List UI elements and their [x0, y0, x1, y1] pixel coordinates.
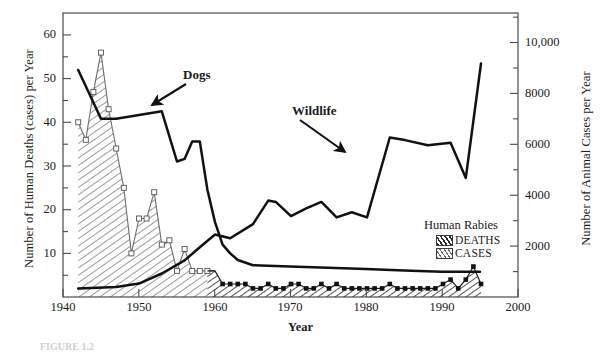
- legend-item-deaths: DEATHS: [436, 234, 524, 246]
- y-right-tick-6000: 6000: [525, 137, 550, 152]
- deaths-line: [207, 267, 481, 289]
- dogs-arrow: [152, 84, 186, 105]
- legend-title: Human Rabies: [424, 218, 524, 233]
- y-left-tick-10: 10: [18, 246, 56, 261]
- x-tick-2000: 2000: [493, 300, 543, 315]
- legend-label-deaths: DEATHS: [455, 234, 500, 246]
- y-right-tick-10000: 10,000: [525, 35, 559, 50]
- cases-area: [78, 53, 215, 297]
- y-left-tick-40: 40: [18, 115, 56, 130]
- legend: Human Rabies DEATHS CASES: [424, 218, 524, 259]
- y-left-tick-60: 60: [18, 27, 56, 42]
- legend-item-cases: CASES: [436, 247, 524, 259]
- legend-swatch-deaths-icon: [436, 235, 453, 246]
- wildlife-arrow: [300, 120, 345, 152]
- legend-swatch-cases-icon: [436, 248, 453, 259]
- y-left-tick-30: 30: [18, 159, 56, 174]
- y-left-tick-50: 50: [18, 71, 56, 86]
- x-tick-1970: 1970: [265, 300, 315, 315]
- annotation-wildlife: Wildlife: [292, 103, 337, 119]
- y-right-tick-2000: 2000: [525, 239, 550, 254]
- x-tick-1950: 1950: [114, 300, 164, 315]
- figure-container: Number of Human Deaths (cases) per Year …: [0, 0, 601, 352]
- area-fills: [78, 53, 481, 297]
- y-right-tick-4000: 4000: [525, 188, 550, 203]
- x-tick-1960: 1960: [190, 300, 240, 315]
- figure-caption: FIGURE 1.2: [40, 341, 94, 352]
- legend-label-cases: CASES: [455, 247, 492, 259]
- y-right-tick-8000: 8000: [525, 86, 550, 101]
- y-axis-left-ticks: [63, 35, 71, 275]
- annotation-dogs: Dogs: [183, 67, 210, 83]
- x-tick-1940: 1940: [38, 300, 88, 315]
- x-tick-1990: 1990: [417, 300, 467, 315]
- x-tick-1980: 1980: [341, 300, 391, 315]
- y-left-tick-20: 20: [18, 202, 56, 217]
